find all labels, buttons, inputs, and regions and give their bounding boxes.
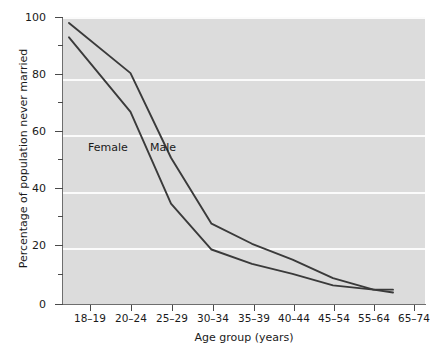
line-series-female [69,37,393,292]
x-axis-title: Age group (years) [63,331,425,344]
series-label-male: Male [150,141,176,154]
y-axis-title: Percentage of population never married [17,44,30,274]
series-label-female: Female [88,141,128,154]
data-lines [0,0,439,352]
line-series-male [69,23,393,290]
chart-figure: 100 80 60 40 20 0 18–19 20–24 25–29 30–3… [0,0,439,352]
